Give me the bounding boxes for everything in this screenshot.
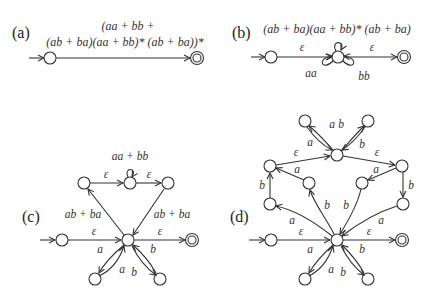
- state-bottom-left: [89, 273, 101, 285]
- state-right-side: [397, 198, 409, 210]
- edge-label-in: ε: [299, 225, 304, 237]
- edge-label-right-b: b: [408, 179, 414, 191]
- final-state-inner-ring: [398, 236, 406, 244]
- edge-label-bottom-right-b2: b: [359, 243, 365, 255]
- edge-label-left-diag: ab + ba: [65, 208, 102, 220]
- edge-label-loop-top: aa + bb: [112, 150, 149, 162]
- final-state-inner-ring: [188, 236, 196, 244]
- edge-label-mid-left-b: b: [324, 199, 330, 211]
- state-top-left: [78, 177, 90, 189]
- state-top-right: [396, 160, 408, 172]
- state-center: [122, 234, 134, 246]
- edge-label-top-left: ε: [104, 168, 109, 180]
- final-state-inner-ring: [193, 54, 201, 62]
- middle-state: [332, 51, 344, 63]
- state-bottom-left: [299, 273, 311, 285]
- panel-a-expression-line1: (aa + bb +: [101, 19, 154, 33]
- start-state: [44, 52, 56, 64]
- edge-label-bottom-left-a: a: [307, 243, 313, 255]
- panel-a-expression-line2: (ab + ba)(aa + bb)* (ab + ba))*: [46, 35, 203, 49]
- start-state: [56, 234, 68, 246]
- edge-label-bottom-right-out: b: [150, 243, 156, 255]
- edge-label-top-right-eps: ε: [375, 146, 380, 158]
- edge-label-top-left-a: a: [294, 163, 300, 175]
- edge-label-out: ε: [370, 41, 375, 53]
- edge-label-bottom-right-b: b: [340, 266, 346, 278]
- panel-d-label: (d): [230, 208, 249, 226]
- edge-label-loop-right: bb: [358, 70, 370, 82]
- state-hub: [331, 234, 343, 246]
- edge-label-right-diag: ab + ba: [154, 208, 191, 220]
- state-top-right: [162, 177, 174, 189]
- edge-label-top-right: ε: [147, 168, 152, 180]
- state-mid-right: [356, 177, 368, 189]
- edge-label-upper-right-b: b: [338, 118, 344, 130]
- edge-label-left-a: a: [289, 214, 295, 226]
- edge-label-bottom-left-out: a: [97, 243, 103, 255]
- panel-b-expression: (ab + ba)(aa + bb)* (ab + ba): [263, 22, 410, 36]
- edge-label-upper-left-b: a: [329, 118, 335, 130]
- edge-label-top-left-eps: ε: [294, 146, 299, 158]
- edge-label-upper-right-b2: b: [359, 138, 365, 150]
- edge-label-loop-left: aa: [305, 67, 317, 79]
- edge-label-upper-left-a: a: [307, 136, 313, 148]
- automata-figure: (a) (aa + bb + (ab + ba)(aa + bb)* (ab +…: [0, 0, 431, 300]
- edge-top-left-to-hub: [276, 156, 330, 165]
- state-top-middle: [124, 177, 136, 189]
- panel-b-label: (b): [232, 24, 251, 42]
- edge-label-bottom-right-in: b: [131, 266, 137, 278]
- edge-label-mid-right-b: b: [343, 199, 349, 211]
- panel-b: (b) (ab + ba)(aa + bb)* (ab + ba) ε aa b…: [232, 22, 411, 82]
- edge-label-out: ε: [367, 225, 372, 237]
- edge-mid-right-to-hub: [340, 189, 361, 234]
- edge-hub-to-mid-left: [310, 190, 334, 234]
- edge-hub-to-top-right: [343, 156, 395, 165]
- edge-label-in: ε: [92, 225, 97, 237]
- panel-c-label: (c): [22, 208, 40, 226]
- panel-a-label: (a): [12, 24, 30, 42]
- edge-label-bottom-left-in: a: [119, 263, 125, 275]
- panel-d: (d) a a b b ε ε a a b b a: [230, 115, 414, 285]
- edge-label-out: ε: [158, 225, 163, 237]
- start-state: [265, 51, 277, 63]
- panel-c: (c) aa + bb ε ε ab + ba ab + ba ε ε a a: [22, 150, 199, 285]
- state-left-side: [264, 198, 276, 210]
- start-state: [265, 234, 277, 246]
- edge-label-in: ε: [300, 41, 305, 53]
- edge-label-left-b: b: [259, 179, 265, 191]
- loop-top: [335, 43, 342, 51]
- state-mid-left: [303, 177, 315, 189]
- panel-a: (a) (aa + bb + (ab + ba)(aa + bb)* (ab +…: [12, 19, 204, 65]
- loop-top-middle: [127, 170, 133, 178]
- edge-label-top-right-a: a: [373, 163, 379, 175]
- state-top-left: [264, 160, 276, 172]
- final-state-inner-ring: [400, 53, 408, 61]
- edge-label-bottom-left-a2: a: [328, 263, 334, 275]
- state-upper-right: [362, 115, 374, 127]
- edge-label-right-a: a: [378, 214, 384, 226]
- state-upper-left: [299, 115, 311, 127]
